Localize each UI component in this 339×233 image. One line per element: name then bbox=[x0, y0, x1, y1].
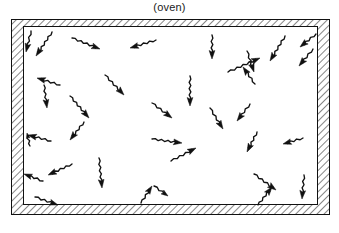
arrow-head bbox=[98, 179, 104, 188]
arrow-shaft bbox=[105, 75, 121, 91]
arrow-head bbox=[187, 98, 193, 107]
arrow-head bbox=[265, 187, 273, 195]
arrow-head bbox=[24, 174, 33, 179]
arrow-shaft bbox=[72, 38, 95, 48]
arrow-shaft bbox=[254, 174, 273, 187]
arrow-head bbox=[209, 51, 215, 60]
molecule-velocity-arrow bbox=[70, 122, 84, 140]
molecule-velocity-arrow bbox=[300, 175, 306, 199]
molecule-velocity-arrow bbox=[283, 138, 303, 144]
molecule-velocity-arrow bbox=[130, 40, 156, 48]
molecule-velocity-arrow bbox=[105, 75, 124, 95]
molecule-velocity-arrow bbox=[48, 164, 72, 175]
arrow-shaft bbox=[210, 108, 220, 125]
arrow-shaft bbox=[152, 103, 168, 116]
molecule-velocity-arrow bbox=[209, 35, 215, 59]
oven-diagram bbox=[0, 0, 339, 233]
molecule-velocity-arrow bbox=[270, 36, 285, 61]
molecule-velocity-arrow bbox=[28, 134, 51, 141]
molecule-velocity-arrow bbox=[187, 76, 193, 106]
arrow-shaft bbox=[152, 139, 177, 144]
molecule-velocity-arrow bbox=[152, 139, 182, 145]
arrow-shaft bbox=[189, 76, 191, 101]
molecule-velocity-arrow bbox=[299, 49, 313, 66]
arrow-shaft bbox=[171, 149, 191, 161]
molecule-velocity-arrow bbox=[254, 174, 276, 190]
arrow-head bbox=[247, 143, 253, 152]
molecule-velocity-arrow bbox=[35, 197, 58, 205]
arrow-head bbox=[25, 43, 31, 52]
arrow-head bbox=[36, 47, 43, 56]
molecule-velocity-arrow bbox=[247, 132, 257, 152]
oven-figure: (oven) bbox=[0, 0, 339, 233]
molecule-velocity-arrow bbox=[70, 96, 89, 118]
arrow-head bbox=[70, 132, 78, 140]
arrow-shaft bbox=[38, 32, 52, 52]
arrow-head bbox=[43, 99, 49, 108]
arrow-shaft bbox=[135, 40, 156, 47]
arrow-shaft bbox=[272, 36, 285, 57]
molecule-velocity-arrow bbox=[43, 85, 49, 108]
molecule-velocity-arrow bbox=[24, 174, 43, 181]
molecule-velocity-arrow bbox=[237, 104, 250, 121]
molecule-velocity-arrow bbox=[36, 32, 52, 56]
molecule-velocity-arrow bbox=[210, 108, 223, 129]
arrow-shaft bbox=[99, 158, 102, 183]
molecule-velocity-arrow bbox=[37, 78, 60, 85]
arrow-shaft bbox=[53, 164, 72, 174]
molecule-arrow-group bbox=[24, 31, 316, 205]
molecule-velocity-arrow bbox=[258, 187, 272, 205]
arrow-head bbox=[251, 58, 260, 64]
molecule-velocity-arrow bbox=[72, 38, 100, 49]
arrow-shaft bbox=[70, 96, 85, 115]
arrow-head bbox=[187, 148, 196, 154]
arrow-head bbox=[270, 52, 277, 61]
molecule-velocity-arrow bbox=[141, 186, 152, 203]
molecule-velocity-arrow bbox=[25, 31, 31, 52]
arrow-head bbox=[48, 169, 57, 175]
molecule-velocity-arrow bbox=[154, 186, 168, 196]
molecule-velocity-arrow bbox=[300, 34, 316, 47]
molecule-velocity-arrow bbox=[152, 103, 172, 118]
molecule-velocity-arrow bbox=[98, 158, 104, 188]
molecule-velocity-arrow bbox=[171, 148, 196, 161]
